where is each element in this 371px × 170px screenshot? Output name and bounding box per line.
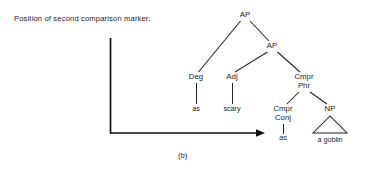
node-adj: Adj [226, 72, 238, 81]
node-cmpr-conj-line2: Conj [275, 113, 291, 122]
node-cmpr-phr-line2: Phr [298, 81, 311, 90]
node-np: NP [325, 104, 336, 113]
node-cmpr-conj-line1: Cmpr [273, 104, 292, 113]
axis-arrowhead-icon [256, 129, 265, 136]
branch-cmprphr-to-np [310, 92, 327, 104]
node-deg: Deg [189, 72, 203, 81]
leaf-scary: scary [223, 104, 241, 113]
leaf-as-second: as [279, 133, 287, 142]
position-axis [110, 38, 265, 137]
branch-ap-to-ap2 [250, 21, 269, 41]
node-ap-second: AP [267, 41, 277, 50]
leaf-a-goblin: a goblin [317, 135, 342, 144]
figure-caption: (b) [178, 151, 187, 160]
figure-container: Position of second comparison marker: [0, 0, 371, 170]
branch-cmprphr-to-cmprconj [287, 92, 299, 104]
branch-ap2-to-cmprphr [278, 52, 301, 72]
node-cmpr-phr-line1: Cmpr [294, 72, 313, 81]
syntax-tree-diagram: AP AP Deg Adj Cmpr Phr Cmpr Conj NP as s… [0, 0, 371, 170]
leaf-as-first: as [192, 104, 200, 113]
branch-ap-to-deg [199, 21, 241, 72]
branch-ap2-to-adj [235, 52, 268, 72]
node-ap-top: AP [240, 10, 250, 19]
np-triangle-icon [313, 116, 347, 133]
